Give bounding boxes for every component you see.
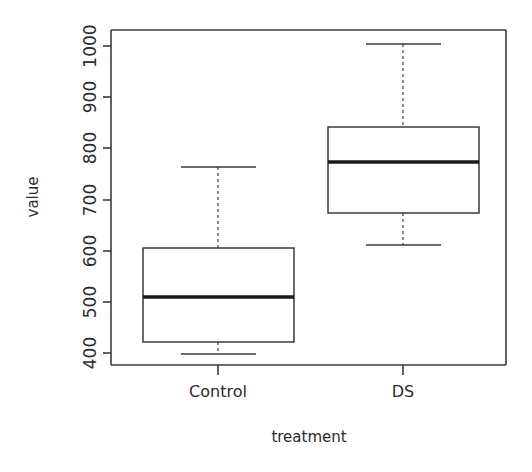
y-tick-label-800: 800 (80, 132, 100, 164)
y-tick-label-600: 600 (80, 235, 100, 267)
y-tick-label-1000: 1000 (80, 24, 100, 67)
x-axis-title: treatment (271, 428, 346, 446)
x-tick-label-control: Control (189, 382, 247, 401)
boxplot-canvas: 1000 900 800 700 600 500 400 Control DS (0, 0, 532, 472)
y-tick-label-400: 400 (80, 337, 100, 369)
control-box (143, 248, 294, 342)
x-axis: Control DS (189, 365, 414, 401)
y-axis-title: value (24, 177, 42, 218)
y-axis: 1000 900 800 700 600 500 400 (80, 24, 111, 369)
box-control (143, 167, 294, 354)
y-tick-label-500: 500 (80, 286, 100, 318)
box-ds (328, 44, 479, 245)
y-tick-label-700: 700 (80, 184, 100, 216)
ds-box (328, 127, 479, 213)
y-tick-label-900: 900 (80, 81, 100, 113)
x-tick-label-ds: DS (392, 382, 414, 401)
boxplot-figure: 1000 900 800 700 600 500 400 Control DS (0, 0, 532, 472)
